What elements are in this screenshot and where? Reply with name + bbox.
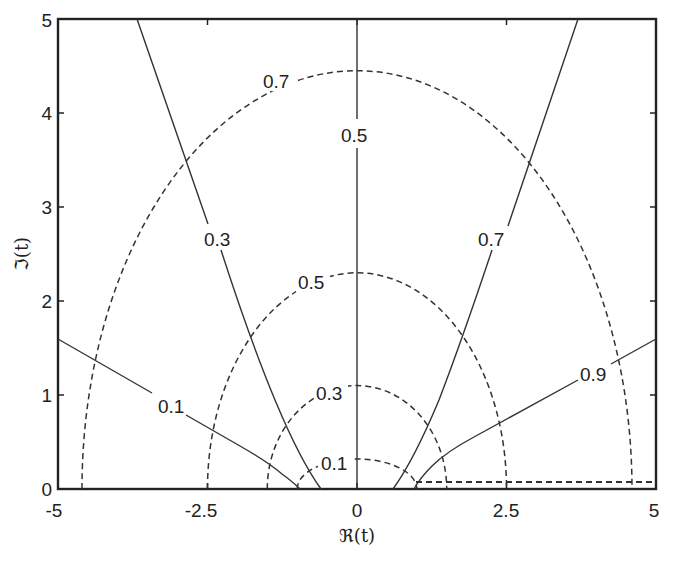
label-dashed-0.3: 0.3 <box>316 383 342 404</box>
solid-contour-0.9 <box>414 339 656 489</box>
svg-text:2: 2 <box>41 291 52 312</box>
solid-contour-0.7 <box>393 19 578 489</box>
y-axis-label: ℑ(t) <box>11 237 32 271</box>
x-axis-label: ℜ(t) <box>339 525 375 546</box>
svg-text:-2.5: -2.5 <box>185 500 218 521</box>
label-solid-0.9: 0.9 <box>580 364 606 385</box>
label-solid-0.3: 0.3 <box>204 229 230 250</box>
svg-text:-5: -5 <box>46 500 63 521</box>
label-solid-0.5: 0.5 <box>341 125 367 146</box>
label-dashed-0.7: 0.7 <box>263 71 289 92</box>
label-dashed-0.1: 0.1 <box>321 453 347 474</box>
svg-text:2.5: 2.5 <box>493 500 519 521</box>
label-solid-0.7: 0.7 <box>478 229 504 250</box>
contour-plot: 0.1 0.3 0.5 0.7 0.9 0.7 0.5 0.3 0.1 0 1 … <box>0 0 673 562</box>
svg-text:0: 0 <box>41 479 52 500</box>
solid-contours <box>58 19 656 489</box>
label-solid-0.1: 0.1 <box>158 396 184 417</box>
svg-text:5: 5 <box>649 500 660 521</box>
label-dashed-0.5: 0.5 <box>298 272 324 293</box>
svg-text:1: 1 <box>41 385 52 406</box>
contour-labels: 0.1 0.3 0.5 0.7 0.9 0.7 0.5 0.3 0.1 <box>158 71 606 474</box>
svg-text:4: 4 <box>41 103 52 124</box>
svg-text:3: 3 <box>41 197 52 218</box>
y-tick-labels: 0 1 2 3 4 5 <box>41 10 52 500</box>
svg-text:0: 0 <box>352 500 363 521</box>
x-tick-labels: -5 -2.5 0 2.5 5 <box>46 500 660 521</box>
svg-text:5: 5 <box>41 10 52 31</box>
